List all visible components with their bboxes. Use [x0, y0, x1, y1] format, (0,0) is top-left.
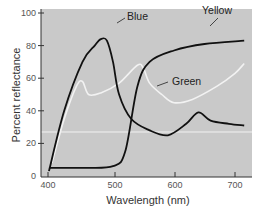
y-tick-label: 100 [21, 8, 36, 18]
y-tick-label: 40 [26, 106, 36, 116]
y-axis-title: Percent reflectance [10, 48, 22, 143]
y-tick-label: 80 [26, 41, 36, 51]
x-axis-title: Wavelength (nm) [106, 194, 189, 206]
x-tick-label: 500 [107, 180, 122, 190]
yellow-label: Yellow [202, 4, 232, 16]
x-tick-label: 600 [167, 180, 182, 190]
x-tick-label: 400 [40, 180, 55, 190]
x-tick-label: 700 [227, 180, 242, 190]
green-label: Green [172, 75, 201, 87]
y-tick-label: 0 [31, 171, 36, 181]
reflectance-chart: 020406080100400500600700 Percent reflect… [0, 0, 263, 216]
y-tick-label: 20 [26, 138, 36, 148]
y-tick-label: 60 [26, 73, 36, 83]
blue-label: Blue [127, 10, 148, 22]
